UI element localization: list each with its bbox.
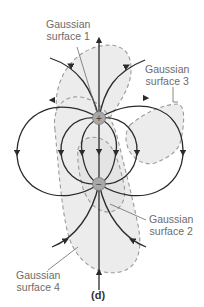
label-gaussian-surface-4: Gaussian surface 4 [16,269,60,293]
label-gaussian-surface-3: Gaussian surface 3 [145,63,189,87]
svg-text:+: + [96,113,102,124]
gaussian-surface-3 [126,104,184,164]
label-gaussian-surface-2: Gaussian surface 2 [149,213,193,237]
electric-dipole-diagram: + − [0,0,204,307]
leader-surface-3 [173,87,178,102]
label-gaussian-surface-1: Gaussian surface 1 [46,18,90,42]
positive-charge: + [93,112,106,125]
figure-caption: (d) [91,289,105,301]
svg-text:−: − [96,179,102,190]
leader-surface-4 [48,247,78,270]
negative-charge: − [93,178,106,191]
